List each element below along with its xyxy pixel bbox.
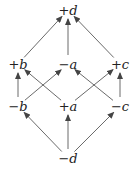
node-plus-b: +b bbox=[8, 57, 27, 72]
node-plus-a: +a bbox=[59, 99, 78, 114]
node-minus-b: −b bbox=[8, 99, 27, 114]
node-minus-d: −d bbox=[58, 151, 77, 166]
hasse-diagram-edges bbox=[0, 0, 137, 174]
node-plus-c: +c bbox=[111, 57, 129, 72]
edge-md-to-mc bbox=[74, 112, 113, 151]
edge-pc-to-pd bbox=[74, 16, 114, 57]
edge-pb-to-pd bbox=[24, 17, 62, 58]
edge-md-to-mb bbox=[24, 112, 62, 151]
node-plus-d: +d bbox=[58, 3, 77, 18]
node-minus-a: −a bbox=[59, 57, 78, 72]
node-minus-c: −c bbox=[111, 99, 129, 114]
